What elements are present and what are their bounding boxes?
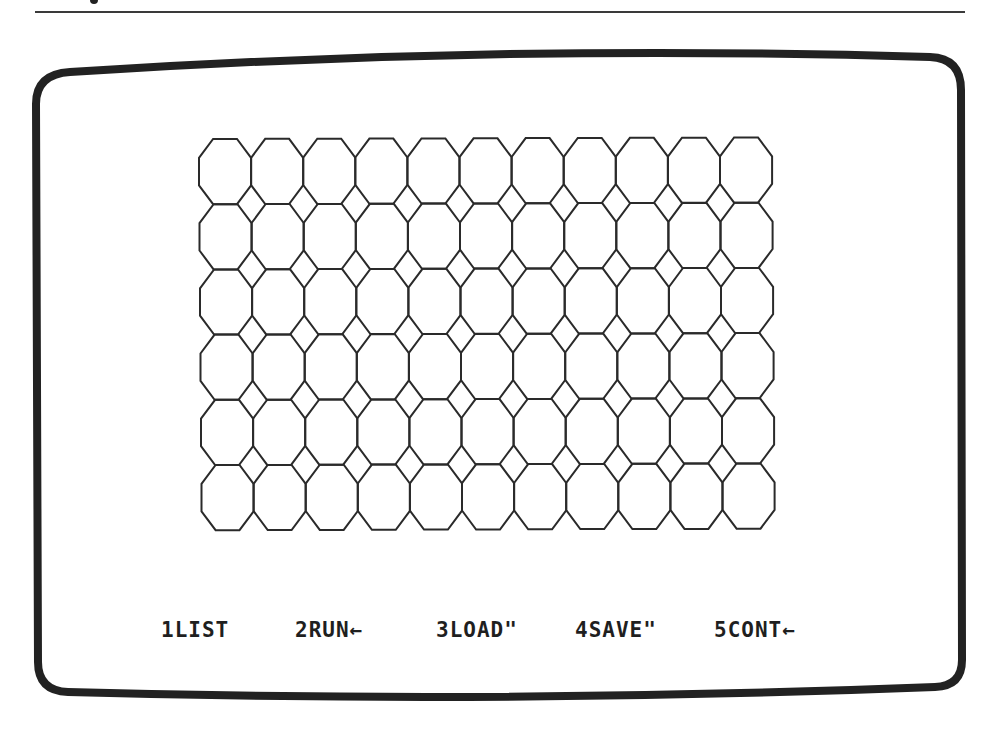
fkey-4-save[interactable]: 4SAVE" xyxy=(575,618,657,642)
function-key-bar: 1LIST 2RUN← 3LOAD" 4SAVE" 5CONT← xyxy=(0,618,995,644)
fkey-1-list[interactable]: 1LIST xyxy=(161,618,229,642)
fkey-2-run[interactable]: 2RUN← xyxy=(295,618,363,642)
crt-screen-frame xyxy=(36,53,962,697)
fkey-5-cont[interactable]: 5CONT← xyxy=(714,618,796,642)
fkey-3-load[interactable]: 3LOAD" xyxy=(436,618,518,642)
